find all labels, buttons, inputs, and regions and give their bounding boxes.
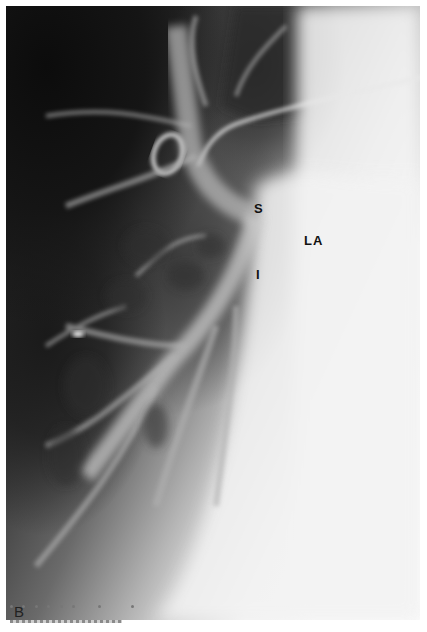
- scale-dots: [10, 605, 140, 611]
- vessel-overlay: [6, 6, 420, 620]
- panel-label: B: [14, 603, 24, 620]
- radiograph-image: S LA I: [6, 6, 420, 620]
- annotation-i: I: [256, 267, 261, 282]
- scan-marker-line: [10, 620, 122, 623]
- annotation-s: S: [254, 201, 264, 216]
- annotation-la: LA: [304, 233, 323, 248]
